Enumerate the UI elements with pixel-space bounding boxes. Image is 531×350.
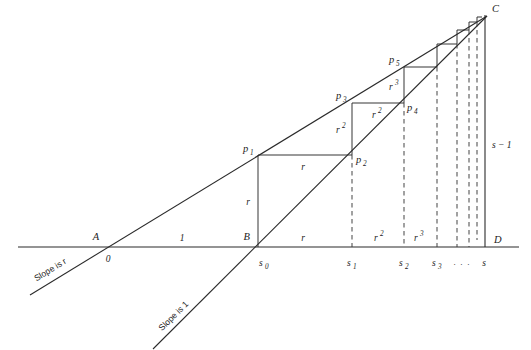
vertex-label-c: C <box>492 3 500 14</box>
axis-label-s0-sub: 0 <box>265 263 269 271</box>
vertex-label-a: A <box>92 231 100 242</box>
vertex-label-d: D <box>493 234 502 245</box>
step-label-horizontal-r2-sup: 2 <box>378 107 382 115</box>
ray-slope-r <box>30 16 487 295</box>
step-label-vertical-r3: r 3 <box>389 79 399 92</box>
axis-label-s1-sub: 1 <box>353 263 357 271</box>
axis-tick-s2: s 2 <box>399 258 409 271</box>
step-label-vertical-r2-sup: 2 <box>342 122 346 130</box>
stair-point-label-p5: p 5 <box>388 54 400 68</box>
baseline-segment-unit: 1 <box>180 233 185 243</box>
step-label-vertical-r3-sup: 3 <box>394 79 399 87</box>
baseline-segment-r3-sup: 3 <box>419 230 424 238</box>
axis-label-s2-sub: 2 <box>405 263 409 271</box>
axis-label-origin: 0 <box>106 254 111 264</box>
stair-point-p1-sub: 1 <box>250 149 254 157</box>
slope-annotation-r: Slope is r <box>32 256 68 283</box>
baseline-segment-r2-base: r <box>374 233 378 243</box>
right-edge-label: s − 1 <box>492 140 512 150</box>
figure-container: A 0 1 B s 0 r s 1 r 2 s 2 r <box>0 0 531 350</box>
step-label-horizontal-r: r <box>301 162 305 172</box>
step-label-horizontal-r2: r 2 <box>372 107 382 120</box>
stair-point-p4-base: p <box>406 102 412 113</box>
axis-label-s0-base: s <box>259 258 263 268</box>
axis-tick-s1: s 1 <box>347 258 357 271</box>
slope-annotation-r-text: Slope is r <box>32 256 68 283</box>
baseline-segment-r2: r 2 <box>374 230 384 243</box>
stair-point-label-p2: p 2 <box>355 154 367 168</box>
slope-annotation-1-text: Slope is 1 <box>156 299 190 333</box>
stair-point-p1-base: p <box>242 143 248 154</box>
axis-label-s2-base: s <box>399 258 403 268</box>
step-label-vertical-r2: r 2 <box>336 122 346 135</box>
step-label-vertical-r2-base: r <box>336 125 340 135</box>
axis-label-ellipsis: . . . <box>453 257 470 267</box>
geometric-series-diagram: A 0 1 B s 0 r s 1 r 2 s 2 r <box>0 0 531 350</box>
stair-point-p2-base: p <box>355 154 361 165</box>
stair-point-label-p1: p 1 <box>242 143 254 157</box>
axis-tick-s0: s 0 <box>259 258 269 271</box>
stair-point-p3-sub: 3 <box>342 96 347 104</box>
axis-label-s1-base: s <box>347 258 351 268</box>
baseline-segment-r3: r 3 <box>414 230 424 243</box>
step-label-vertical-r3-base: r <box>389 82 393 92</box>
baseline-segment-r: r <box>301 233 305 243</box>
baseline-segment-r3-base: r <box>414 233 418 243</box>
stair-point-p5-sub: 5 <box>396 60 400 68</box>
axis-label-s3-base: s <box>432 258 436 268</box>
axis-tick-s3: s 3 <box>432 258 442 271</box>
stair-point-p3-base: p <box>335 90 341 101</box>
stair-point-p2-sub: 2 <box>363 160 367 168</box>
stair-point-p4-sub: 4 <box>414 108 418 116</box>
slope-annotation-1: Slope is 1 <box>156 299 190 333</box>
step-label-horizontal-r2-base: r <box>372 110 376 120</box>
axis-label-s-limit: s <box>482 258 486 268</box>
stair-point-label-p3: p 3 <box>335 90 347 104</box>
baseline-segment-r2-sup: 2 <box>380 230 384 238</box>
step-label-vertical-r: r <box>246 197 250 207</box>
axis-label-s3-sub: 3 <box>437 263 442 271</box>
vertex-label-b: B <box>244 231 251 242</box>
stair-point-label-p4: p 4 <box>406 102 418 116</box>
stair-point-p5-base: p <box>388 54 394 65</box>
